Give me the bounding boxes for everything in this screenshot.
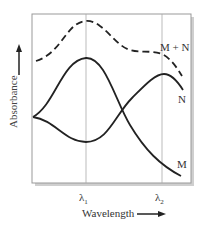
y-axis-label: Absorbance [7,75,19,128]
label-n: N [178,93,186,105]
absorbance-chart [0,0,202,229]
tick-lambda1: λ1 [79,191,88,206]
x-axis-arrow-icon [158,211,166,217]
tick-lambda2: λ2 [155,191,164,206]
plot-frame [32,14,191,183]
x-axis-label: Wavelength [82,207,134,219]
y-axis-arrow-icon [16,44,22,52]
label-m-plus-n: M + N [160,41,189,53]
label-m: M [177,158,187,170]
